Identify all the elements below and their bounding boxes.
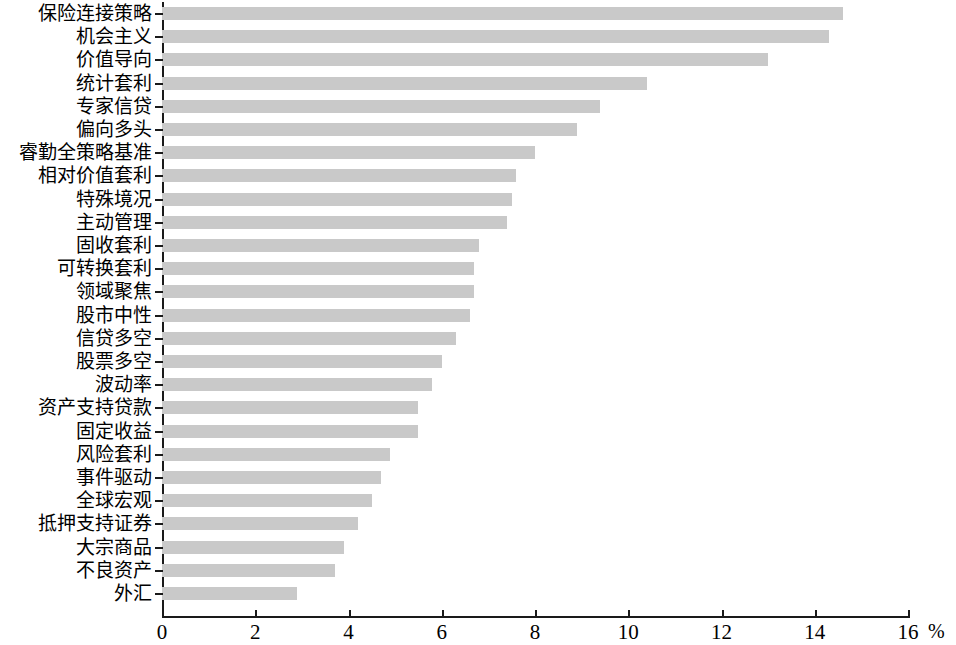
bar xyxy=(162,355,442,368)
x-axis-tick xyxy=(162,610,164,618)
chart-row: 固收套利 xyxy=(0,234,956,257)
y-axis-tick xyxy=(155,593,163,595)
chart-row: 不良资产 xyxy=(0,559,956,582)
chart-row: 固定收益 xyxy=(0,420,956,443)
x-axis-tick xyxy=(815,610,817,618)
chart-row: 资产支持贷款 xyxy=(0,396,956,419)
bar xyxy=(162,425,418,438)
bar xyxy=(162,309,470,322)
chart-row: 大宗商品 xyxy=(0,536,956,559)
bar xyxy=(162,401,418,414)
category-label: 风险套利 xyxy=(0,443,152,466)
category-label: 股市中性 xyxy=(0,304,152,327)
y-axis-tick xyxy=(155,222,163,224)
category-label: 机会主义 xyxy=(0,25,152,48)
y-axis-tick xyxy=(155,570,163,572)
bar xyxy=(162,262,474,275)
y-axis-tick xyxy=(155,338,163,340)
x-axis-tick xyxy=(255,610,257,618)
bar xyxy=(162,471,381,484)
y-axis-tick xyxy=(155,245,163,247)
bar xyxy=(162,7,843,20)
y-axis-tick xyxy=(155,175,163,177)
chart-row: 保险连接策略 xyxy=(0,2,956,25)
chart-row: 全球宏观 xyxy=(0,489,956,512)
bar xyxy=(162,77,647,90)
bar xyxy=(162,146,535,159)
x-axis-tick-label: 2 xyxy=(225,620,285,645)
y-axis-tick xyxy=(155,13,163,15)
chart-row: 特殊境况 xyxy=(0,188,956,211)
x-axis-tick xyxy=(535,610,537,618)
chart-row: 相对价值套利 xyxy=(0,164,956,187)
chart-row: 专家信贷 xyxy=(0,95,956,118)
y-axis-tick xyxy=(155,291,163,293)
chart-row: 领域聚焦 xyxy=(0,280,956,303)
category-label: 固定收益 xyxy=(0,420,152,443)
chart-row: 波动率 xyxy=(0,373,956,396)
chart-row: 股票多空 xyxy=(0,350,956,373)
category-label: 统计套利 xyxy=(0,72,152,95)
bar xyxy=(162,517,358,530)
y-axis-tick xyxy=(155,477,163,479)
bar xyxy=(162,30,829,43)
y-axis-tick xyxy=(155,454,163,456)
x-axis-tick-label: 12 xyxy=(692,620,752,645)
bar xyxy=(162,285,474,298)
bar-chart: 保险连接策略机会主义价值导向统计套利专家信贷偏向多头睿勤全策略基准相对价值套利特… xyxy=(0,0,956,645)
category-label: 事件驱动 xyxy=(0,466,152,489)
chart-row: 统计套利 xyxy=(0,72,956,95)
bar xyxy=(162,564,335,577)
y-axis-tick xyxy=(155,268,163,270)
bar xyxy=(162,100,600,113)
category-label: 固收套利 xyxy=(0,234,152,257)
category-label: 专家信贷 xyxy=(0,95,152,118)
x-axis-tick-label: 6 xyxy=(412,620,472,645)
y-axis-tick xyxy=(155,407,163,409)
y-axis-tick xyxy=(155,129,163,131)
bar xyxy=(162,494,372,507)
chart-row: 机会主义 xyxy=(0,25,956,48)
bar xyxy=(162,239,479,252)
chart-row: 主动管理 xyxy=(0,211,956,234)
y-axis-tick xyxy=(155,315,163,317)
y-axis-tick xyxy=(155,547,163,549)
x-axis-tick-label: 4 xyxy=(319,620,379,645)
chart-row: 睿勤全策略基准 xyxy=(0,141,956,164)
category-label: 相对价值套利 xyxy=(0,164,152,187)
category-label: 股票多空 xyxy=(0,350,152,373)
chart-row: 价值导向 xyxy=(0,48,956,71)
x-axis-tick xyxy=(349,610,351,618)
chart-row: 抵押支持证券 xyxy=(0,512,956,535)
bar xyxy=(162,587,297,600)
x-axis-tick xyxy=(908,610,910,618)
chart-row: 事件驱动 xyxy=(0,466,956,489)
category-label: 价值导向 xyxy=(0,48,152,71)
bar xyxy=(162,216,507,229)
category-label: 保险连接策略 xyxy=(0,2,152,25)
category-label: 全球宏观 xyxy=(0,489,152,512)
y-axis-tick xyxy=(155,384,163,386)
category-label: 大宗商品 xyxy=(0,536,152,559)
x-axis-unit-label: % xyxy=(928,620,945,643)
category-label: 特殊境况 xyxy=(0,188,152,211)
x-axis-tick xyxy=(722,610,724,618)
bar xyxy=(162,53,768,66)
category-label: 资产支持贷款 xyxy=(0,396,152,419)
x-axis-tick-label: 8 xyxy=(505,620,565,645)
y-axis-tick xyxy=(155,83,163,85)
y-axis-tick xyxy=(155,361,163,363)
y-axis-tick xyxy=(155,431,163,433)
bar xyxy=(162,541,344,554)
x-axis-tick xyxy=(628,610,630,618)
bar xyxy=(162,193,512,206)
bar xyxy=(162,169,516,182)
x-axis-tick-label: 10 xyxy=(598,620,658,645)
y-axis-tick xyxy=(155,152,163,154)
x-axis-tick-label: 14 xyxy=(785,620,845,645)
chart-row: 股市中性 xyxy=(0,304,956,327)
chart-row: 偏向多头 xyxy=(0,118,956,141)
category-label: 不良资产 xyxy=(0,559,152,582)
bar xyxy=(162,378,432,391)
x-axis-tick-label: 0 xyxy=(132,620,192,645)
